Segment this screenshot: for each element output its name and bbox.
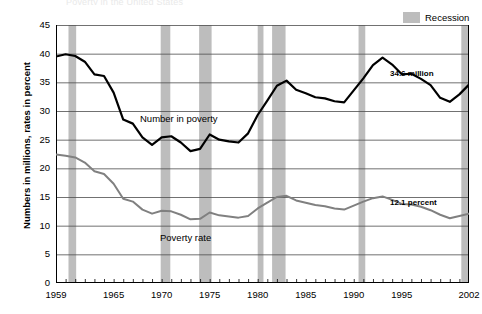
y-tick-label: 25 [28,135,50,145]
poverty-chart-figure: Poverty in the United States Numbers in … [0,0,482,314]
y-tick-label: 30 [28,106,50,116]
y-tick-label: 5 [28,249,50,259]
x-tick-label: 1975 [190,290,230,300]
y-tick-label: 20 [28,163,50,173]
x-tick-label: 1959 [36,290,76,300]
y-tick-label: 0 [28,278,50,288]
recession-band [359,25,366,283]
recession-band [461,25,468,283]
x-tick-label: 1965 [94,290,134,300]
series-label-number-in-poverty: Number in poverty [140,113,218,124]
x-tick-label: 1980 [238,290,278,300]
y-tick-label: 15 [28,192,50,202]
end-value-number-in-poverty: 34.6 million [390,69,434,78]
y-tick-label: 40 [28,49,50,59]
plot-area [56,25,469,283]
x-tick-label: 1970 [142,290,182,300]
y-tick-label: 45 [28,20,50,30]
chart-title-remnant: Poverty in the United States [66,0,296,5]
legend-label-recession: Recession [425,12,469,23]
x-tick-label: 1990 [334,290,374,300]
recession-band [258,25,264,283]
recession-band [68,25,76,283]
end-value-poverty-rate: 12.1 percent [390,198,437,207]
x-tick-label: 1995 [382,290,422,300]
recession-band [199,25,211,283]
x-tick-label: 2002 [449,290,482,300]
x-tick-label: 1985 [286,290,326,300]
recession-band [161,25,171,283]
legend: Recession [403,11,469,23]
y-tick-label: 10 [28,221,50,231]
recession-swatch-icon [403,12,420,23]
chart-svg [56,25,469,283]
y-tick-label: 35 [28,77,50,87]
recession-band [272,25,285,283]
series-label-poverty-rate: Poverty rate [160,232,211,243]
